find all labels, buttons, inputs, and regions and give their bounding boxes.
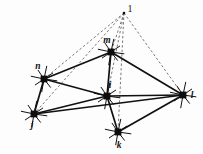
- node-label-l: l: [191, 90, 194, 100]
- figure-root: 1mniljk: [0, 0, 203, 154]
- node-label-apex: 1: [128, 3, 133, 14]
- node-marker-square: [180, 92, 187, 99]
- node-marker-square: [115, 129, 122, 136]
- node-label-i: i: [109, 80, 112, 90]
- node-label-m: m: [103, 35, 110, 45]
- mesh-diagram: 1mniljk: [0, 0, 203, 154]
- node-marker-square: [104, 93, 111, 100]
- node-apex[interactable]: [123, 12, 126, 15]
- node-label-k: k: [117, 140, 122, 150]
- node-marker-square: [41, 76, 48, 83]
- node-marker-square: [31, 111, 38, 118]
- node-marker-point: [123, 12, 126, 15]
- node-marker-square: [108, 49, 115, 56]
- node-label-n: n: [35, 61, 40, 71]
- canvas-background: [0, 0, 203, 154]
